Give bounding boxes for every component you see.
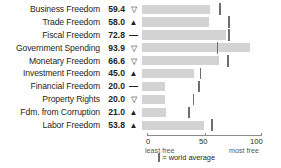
world-average-tick [227,55,229,67]
row-label: Financial Freedom [0,82,104,91]
world-average-tick [211,119,213,131]
row-label: Trade Freedom [0,18,104,27]
row-plot [142,29,281,42]
value-bar [142,17,209,26]
world-average-tick [219,3,221,15]
trend-down-icon: ▽ [125,44,142,53]
chart-row: Fiscal Freedom72.8— [0,29,281,42]
row-value: 20.0 [104,82,125,91]
row-value: 20.0 [104,95,125,104]
row-plot [142,67,281,80]
chart-row: Business Freedom59.4▽ [0,3,281,16]
world-average-tick [217,42,219,54]
row-value: 59.4 [104,5,125,14]
row-plot [142,16,281,29]
row-plot [142,42,281,55]
row-plot [142,3,281,16]
row-label: Fiscal Freedom [0,31,104,40]
axis-label-100: 100 [250,137,263,146]
value-bar [142,82,165,91]
row-plot [142,80,281,93]
row-label: Investment Freedom [0,69,104,78]
trend-up-icon: ▲ [125,69,142,78]
chart-row: Investment Freedom45.0▲ [0,67,281,80]
chart-row: Fdm. from Corruption21.0▲ [0,106,281,119]
row-plot [142,93,281,106]
trend-down-icon: ▽ [125,95,142,104]
trend-flat-icon: — [125,31,142,40]
row-plot [142,55,281,68]
row-label: Property Rights [0,95,104,104]
row-plot [142,106,281,119]
row-value: 93.9 [104,44,125,53]
trend-up-icon: ▲ [125,121,142,130]
row-value: 53.8 [104,121,125,130]
axis-label-50: 50 [199,137,207,146]
value-bar [142,30,226,39]
freedom-index-chart: Business Freedom59.4▽Trade Freedom58.0▲F… [0,0,281,168]
legend-label: = world average [162,153,215,162]
world-average-tick [228,29,230,41]
axis-label-0: 0 [146,137,150,146]
chart-row: Financial Freedom20.0— [0,80,281,93]
chart-rows: Business Freedom59.4▽Trade Freedom58.0▲F… [0,3,281,132]
world-average-marker-icon [158,153,160,162]
chart-row: Property Rights20.0▽ [0,93,281,106]
value-bar [142,5,210,14]
value-bar [142,108,166,117]
world-average-tick [198,81,200,93]
row-value: 21.0 [104,108,125,117]
row-label: Fdm. from Corruption [0,108,104,117]
chart-row: Labor Freedom53.8▲ [0,119,281,132]
row-value: 58.0 [104,18,125,27]
trend-up-icon: ▲ [125,18,142,27]
value-bar [142,56,219,65]
row-label: Business Freedom [0,5,104,14]
trend-down-icon: ▽ [125,57,142,66]
row-label: Monetary Freedom [0,57,104,66]
axis-tick-0 [147,133,148,136]
world-average-tick [200,68,202,80]
trend-down-icon: ▽ [125,5,142,14]
chart-row: Government Spending93.9▽ [0,42,281,55]
value-bar [142,69,194,78]
world-average-tick [228,16,230,28]
trend-up-icon: ▲ [125,108,142,117]
x-axis: 0 50 100 least free most free [147,135,262,136]
row-label: Labor Freedom [0,121,104,130]
world-average-tick [188,107,190,119]
world-average-tick [193,94,195,106]
chart-row: Monetary Freedom66.6▽ [0,55,281,68]
axis-tick-100 [261,133,262,136]
chart-row: Trade Freedom58.0▲ [0,16,281,29]
row-plot [142,119,281,132]
axis-tick-50 [205,133,206,136]
value-bar [142,121,204,130]
row-value: 72.8 [104,31,125,40]
legend: = world average [158,153,215,162]
row-value: 66.6 [104,57,125,66]
row-label: Government Spending [0,44,104,53]
value-bar [142,43,250,52]
row-value: 45.0 [104,69,125,78]
value-bar [142,95,165,104]
trend-flat-icon: — [125,82,142,91]
axis-caption-most-free: most free [229,146,259,155]
